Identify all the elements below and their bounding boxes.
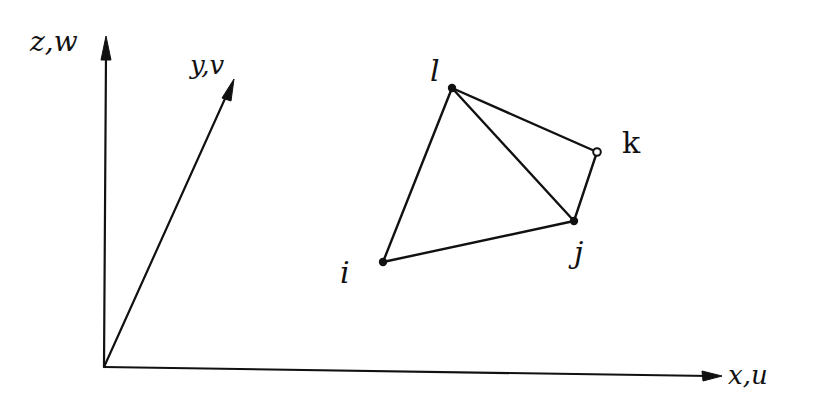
diagram-svg (0, 0, 824, 398)
x-axis-label: x,u (728, 362, 768, 388)
z-axis-line (104, 55, 106, 367)
axes (104, 55, 710, 376)
diagram-canvas: z,w y,v x,u i j k l (0, 0, 824, 398)
node-j-label: j (574, 238, 583, 268)
node-k-marker (593, 148, 601, 156)
edge-i-j (383, 221, 574, 262)
node-l-marker (448, 84, 456, 92)
edge-j-l (452, 88, 574, 221)
z-axis-arrow-icon (101, 36, 111, 60)
axis-arrowheads (101, 36, 722, 381)
node-j-marker (570, 217, 578, 225)
node-l-label: l (430, 56, 440, 86)
node-k-label: k (622, 128, 640, 158)
y-axis-line (104, 92, 228, 367)
x-axis-arrow-icon (702, 371, 722, 381)
node-i-marker (379, 258, 387, 266)
element-edges (383, 88, 597, 262)
y-axis-label: y,v (190, 52, 224, 78)
x-axis-line (104, 367, 710, 376)
node-i-label: i (340, 258, 350, 288)
edge-k-l (452, 88, 597, 152)
edge-j-k (574, 152, 597, 221)
edge-i-l (383, 88, 452, 262)
y-axis-arrow-icon (222, 79, 234, 101)
z-axis-label: z,w (30, 28, 78, 56)
